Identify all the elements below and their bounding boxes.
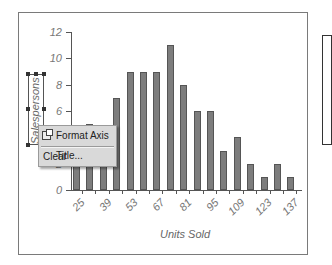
x-tick — [176, 190, 177, 194]
selection-handle[interactable] — [26, 72, 30, 76]
bar[interactable] — [127, 72, 134, 191]
x-tick — [189, 190, 190, 194]
selection-handle[interactable] — [34, 72, 38, 76]
bar[interactable] — [287, 177, 294, 190]
selection-handle[interactable] — [42, 107, 46, 111]
y-tick — [66, 58, 71, 59]
y-tick-label: 0 — [38, 184, 62, 196]
selection-handle[interactable] — [42, 72, 46, 76]
x-tick — [149, 190, 150, 194]
bar[interactable] — [194, 111, 201, 190]
x-tick — [283, 190, 284, 194]
x-tick — [256, 190, 257, 194]
x-axis-title[interactable]: Units Sold — [160, 228, 210, 240]
x-tick — [296, 190, 297, 194]
bar[interactable] — [247, 164, 254, 190]
bar[interactable] — [220, 151, 227, 191]
bar[interactable] — [261, 177, 268, 190]
bar[interactable] — [180, 85, 187, 190]
y-tick — [66, 190, 71, 191]
y-tick — [66, 85, 71, 86]
bar[interactable] — [153, 72, 160, 191]
bar[interactable] — [207, 111, 214, 190]
y-tick-label: 10 — [38, 52, 62, 64]
y-tick — [66, 32, 71, 33]
menu-item-clear[interactable]: Clear — [39, 147, 116, 167]
x-axis[interactable] — [71, 190, 302, 191]
x-tick — [82, 190, 83, 194]
x-tick — [270, 190, 271, 194]
menu-item-format-axis-title[interactable]: Format Axis Title... — [39, 126, 116, 146]
legend[interactable] — [322, 35, 332, 145]
x-tick — [109, 190, 110, 194]
x-tick — [162, 190, 163, 194]
y-tick-label: 12 — [38, 26, 62, 38]
bar[interactable] — [274, 164, 281, 190]
x-tick — [203, 190, 204, 194]
bar[interactable] — [167, 45, 174, 190]
x-tick — [95, 190, 96, 194]
x-tick — [229, 190, 230, 194]
format-axis-title-icon — [42, 131, 51, 140]
y-tick — [66, 111, 71, 112]
x-tick — [136, 190, 137, 194]
menu-item-label: Clear — [43, 147, 67, 167]
x-tick — [216, 190, 217, 194]
bar[interactable] — [234, 137, 241, 190]
x-tick — [243, 190, 244, 194]
x-tick — [122, 190, 123, 194]
context-menu: Format Axis Title... Clear — [38, 125, 117, 167]
bar[interactable] — [140, 72, 147, 191]
